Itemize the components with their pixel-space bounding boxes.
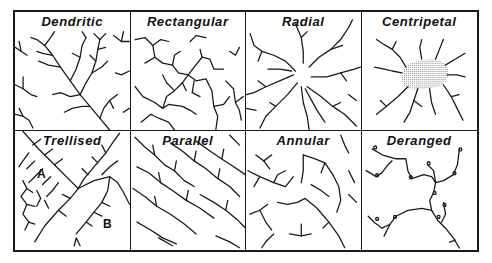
annular-drainage-diagram — [246, 131, 361, 250]
panel-title: Trellised — [15, 133, 130, 148]
panel-title: Radial — [246, 14, 361, 29]
panel-trellised: Trellised A B — [15, 131, 131, 250]
panel-title: Annular — [246, 133, 361, 148]
panel-title: Dendritic — [15, 14, 130, 29]
drainage-patterns-grid: Dendritic Recta — [13, 10, 479, 252]
panel-title: Centripetal — [362, 14, 478, 29]
panel-centripetal: Centripetal — [362, 12, 478, 131]
marker-a: A — [37, 167, 46, 181]
panel-title: Deranged — [362, 133, 478, 148]
panel-title: Rectangular — [131, 14, 246, 29]
dendritic-drainage-diagram — [15, 12, 130, 130]
panel-title: Parallel — [131, 133, 246, 148]
panel-radial: Radial — [246, 12, 362, 131]
trellised-drainage-diagram — [15, 131, 130, 250]
panel-rectangular: Rectangular — [131, 12, 247, 131]
basin-stipple — [402, 59, 448, 89]
radial-drainage-diagram — [246, 12, 361, 130]
panel-parallel: Parallel — [131, 131, 247, 250]
marker-b: B — [103, 217, 112, 231]
parallel-drainage-diagram — [131, 131, 246, 250]
deranged-drainage-diagram — [362, 131, 478, 250]
panel-annular: Annular — [246, 131, 362, 250]
centripetal-drainage-diagram — [362, 12, 478, 130]
rectangular-drainage-diagram — [131, 12, 246, 130]
panel-deranged: Deranged — [362, 131, 478, 250]
panel-dendritic: Dendritic — [15, 12, 131, 131]
